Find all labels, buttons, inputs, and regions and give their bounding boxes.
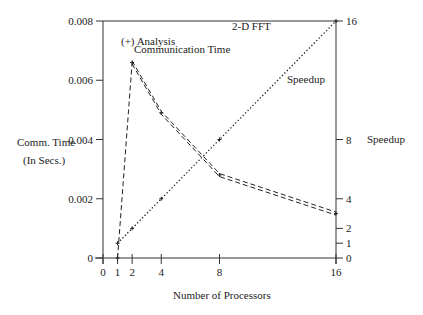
comm-time-rise-segment: [118, 62, 133, 258]
y-right-title: Speedup: [367, 133, 405, 145]
y-left-title-line1: Comm. Time: [17, 136, 75, 148]
chart-title: 2-D FFT: [232, 20, 271, 32]
y-left-title-line2: (In Secs.): [23, 154, 65, 167]
x-tick-label: 2: [129, 266, 135, 278]
speedup-marker-plus: [334, 19, 338, 23]
comm-time-marker-plus: [159, 111, 163, 115]
y-left-tick-label: 0: [88, 252, 94, 264]
y-right-tick-label: 1: [346, 237, 352, 249]
x-tick-label: 1: [115, 266, 121, 278]
y-right-tick-label: 4: [346, 193, 352, 205]
y-left-tick-label: 0.008: [68, 15, 93, 27]
y-right-tick-label: 2: [346, 222, 352, 234]
fft-chart: 00.0020.0040.0060.00801248160124816 2-D …: [0, 0, 423, 315]
series-label-speedup: Speedup: [287, 73, 325, 85]
comm-time-line-lower: [132, 64, 336, 215]
y-right-tick-label: 0: [346, 252, 352, 264]
y-left-tick-label: 0.002: [68, 193, 93, 205]
x-axis-title: Number of Processors: [173, 289, 271, 301]
series-layer: [116, 19, 338, 260]
x-tick-label: 4: [159, 266, 165, 278]
comm-time-marker-plus: [116, 256, 120, 260]
y-right-tick-label: 16: [346, 15, 358, 27]
y-right-tick-label: 8: [346, 134, 352, 146]
y-left-tick-label: 0.006: [68, 74, 93, 86]
series-label-comm-time: Communication Time: [134, 43, 230, 55]
x-tick-label: 0: [100, 266, 106, 278]
x-tick-label: 8: [217, 266, 223, 278]
x-tick-label: 16: [331, 266, 343, 278]
